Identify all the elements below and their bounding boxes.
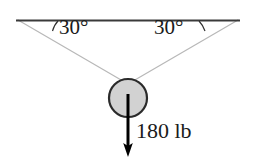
left-angle-tick-icon <box>53 21 59 31</box>
angle-label-right: 30° <box>154 17 183 38</box>
right-angle-tick-icon <box>199 21 205 31</box>
free-body-diagram: 30° 30° 180 lb <box>0 0 253 164</box>
angle-label-left: 30° <box>59 17 88 38</box>
force-label: 180 lb <box>136 120 192 142</box>
diagram-canvas <box>0 0 253 164</box>
